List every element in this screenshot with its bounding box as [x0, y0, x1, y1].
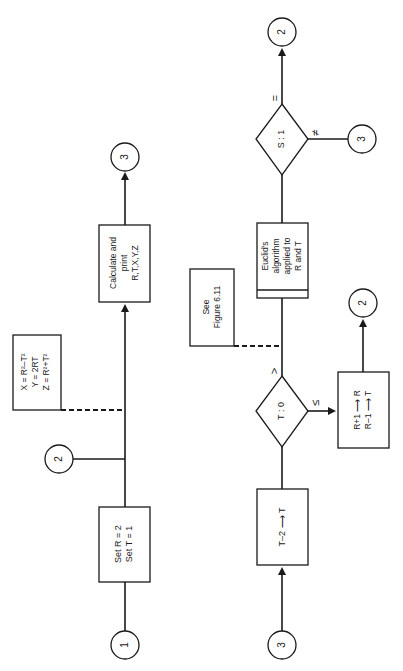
svg-text:Set T = 1: Set T = 1 [124, 526, 134, 562]
connector-3-exit: 3 [111, 143, 139, 171]
init-box: Set R = 2 Set T = 1 [99, 507, 150, 582]
svg-text:3: 3 [119, 154, 130, 160]
euclid-box: Euclid's algorithm applied to R and T [257, 223, 308, 298]
decrement-box: T–2 ⟶ T [257, 489, 308, 565]
svg-text:Calculate and: Calculate and [108, 237, 118, 289]
formula-box: X = R²–T² Y = 2RT Z = R²+T² [13, 335, 61, 410]
svg-text:R,T,X,Y,Z: R,T,X,Y,Z [130, 245, 140, 280]
note-box: See Figure 6.11 [190, 269, 234, 346]
branch-ne-label: ≠ [309, 130, 321, 136]
svg-text:Z = R²+T²: Z = R²+T² [41, 353, 51, 390]
svg-text:Euclid's: Euclid's [260, 241, 270, 270]
svg-text:print: print [119, 254, 129, 271]
svg-text:2: 2 [276, 29, 287, 35]
flowchart-diagram: 1 Set R = 2 Set T = 1 2 X = R²–T² Y = 2 [0, 0, 403, 671]
svg-text:R–1 ⟶ T: R–1 ⟶ T [363, 391, 373, 429]
svg-text:3: 3 [276, 642, 287, 648]
svg-text:1: 1 [119, 642, 130, 648]
connector-3-start: 3 [268, 631, 296, 659]
svg-text:T–2 ⟶ T: T–2 ⟶ T [277, 507, 287, 546]
svg-text:R and T: R and T [293, 241, 303, 271]
top-flow: 1 Set R = 2 Set T = 1 2 X = R²–T² Y = 2 [13, 143, 150, 659]
branch-le-label: ≤ [309, 400, 321, 406]
svg-text:R+1 ⟶ R: R+1 ⟶ R [352, 390, 362, 430]
connector-2-entry: 2 [45, 445, 73, 473]
update-box: R+1 ⟶ R R–1 ⟶ T [338, 372, 389, 448]
decision-t-zero: T : 0 [256, 376, 308, 447]
connector-2-update-exit: 2 [349, 289, 377, 317]
connector-3-ne: 3 [348, 125, 376, 153]
svg-text:algorithm: algorithm [271, 239, 281, 274]
branch-gt-label: > [268, 368, 280, 374]
svg-text:applied to: applied to [282, 237, 292, 274]
svg-text:3: 3 [356, 136, 367, 142]
svg-text:Y = 2RT: Y = 2RT [30, 356, 40, 387]
bottom-flow: 3 T–2 ⟶ T T : 0 > ≤ R+1 ⟶ R R–1 ⟶ T [190, 18, 389, 659]
svg-text:T : 0: T : 0 [276, 402, 286, 420]
connector-2-eq: 2 [268, 18, 296, 46]
svg-text:X = R²–T²: X = R²–T² [19, 353, 29, 390]
svg-text:2: 2 [357, 300, 368, 306]
svg-text:2: 2 [53, 456, 64, 462]
svg-text:S : 1: S : 1 [276, 130, 286, 149]
svg-text:See: See [201, 299, 211, 314]
calculate-print-box: Calculate and print R,T,X,Y,Z [99, 225, 150, 302]
branch-eq-label: = [269, 95, 281, 101]
svg-text:Figure 6.11: Figure 6.11 [212, 286, 222, 329]
connector-1: 1 [111, 631, 139, 659]
decision-s-one: S : 1 [256, 104, 308, 175]
svg-text:Set R = 2: Set R = 2 [113, 525, 123, 563]
